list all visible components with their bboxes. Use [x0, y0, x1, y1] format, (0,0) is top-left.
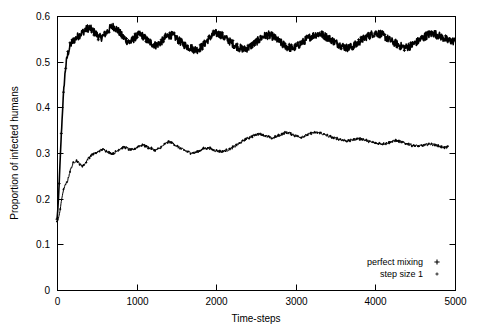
- y-tick-label: 0.1: [36, 239, 50, 250]
- series-path: [57, 131, 448, 221]
- x-tick-label: 2000: [205, 296, 228, 307]
- y-axis-label-text: Proportion of infected humans: [9, 86, 20, 219]
- y-axis-ticks: 00.10.20.30.40.50.6: [36, 11, 455, 296]
- y-tick-label: 0.3: [36, 148, 50, 159]
- x-axis-title: Time-steps: [231, 313, 280, 324]
- axes-box: [58, 17, 456, 291]
- series-step-size-1: [56, 131, 449, 223]
- y-axis-title: Proportion of infected humans: [9, 86, 20, 219]
- x-tick-label: 5000: [444, 296, 467, 307]
- legend-label-perfect-mixing: perfect mixing: [367, 257, 423, 267]
- y-tick-label: 0.5: [36, 57, 50, 68]
- y-tick-label: 0.2: [36, 194, 50, 205]
- series-perfect-mixing: [56, 24, 456, 221]
- chart-legend: perfect mixingstep size 1: [367, 257, 440, 279]
- x-tick-label: 1000: [126, 296, 149, 307]
- legend-marker-step-size-1: [435, 272, 438, 275]
- y-tick-label: 0.4: [36, 102, 50, 113]
- chart-figure: 00.10.20.30.40.50.6 01000200030004000500…: [0, 0, 477, 335]
- series-markers: [56, 131, 449, 223]
- series-path: [57, 24, 455, 220]
- x-axis-label-text: Time-steps: [231, 313, 280, 324]
- legend-label-step-size-1: step size 1: [380, 269, 423, 279]
- plot-frame: [58, 17, 456, 291]
- x-tick-label: 0: [55, 296, 61, 307]
- data-series-layer: [56, 24, 456, 223]
- legend-marker-perfect-mixing: [434, 259, 439, 264]
- infection-proportion-line-chart: 00.10.20.30.40.50.6 01000200030004000500…: [0, 0, 477, 335]
- y-tick-label: 0: [44, 285, 50, 296]
- series-markers: [56, 24, 456, 221]
- x-tick-label: 4000: [364, 296, 387, 307]
- x-tick-label: 3000: [285, 296, 308, 307]
- y-tick-label: 0.6: [36, 11, 50, 22]
